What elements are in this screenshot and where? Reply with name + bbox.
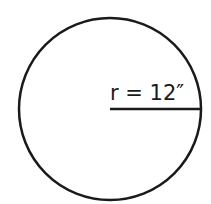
diagram-canvas: r = 12″	[0, 0, 211, 204]
circle-diagram: r = 12″	[0, 0, 211, 204]
radius-label: r = 12″	[110, 81, 184, 105]
